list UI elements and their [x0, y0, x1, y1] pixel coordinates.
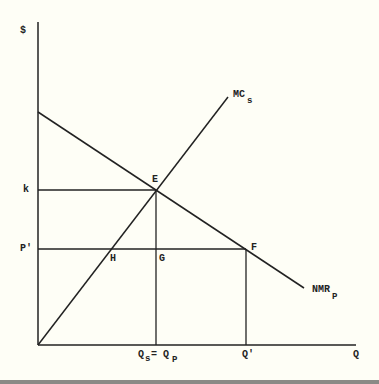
nmr-subscript: P — [332, 292, 338, 302]
diagram-canvas: $ Q MC s NMR P E F G H k P' Q s = Q P Q' — [0, 0, 379, 384]
k-tick-label: k — [23, 184, 29, 195]
nmr-curve — [38, 112, 304, 288]
equals-qp-label: = Q — [151, 349, 169, 360]
scan-edge-bar — [0, 380, 379, 384]
qs-subscript: s — [145, 354, 150, 364]
mc-curve — [38, 97, 228, 345]
qp-subscript: P — [172, 355, 178, 365]
nmr-label: NMR — [312, 284, 330, 295]
y-axis-label: $ — [20, 25, 26, 36]
point-e-label: E — [152, 174, 158, 185]
point-g-label: G — [159, 253, 165, 264]
qs-tick-label: Q — [138, 349, 144, 360]
q-prime-tick-label: Q' — [242, 349, 254, 360]
point-h-label: H — [110, 253, 116, 264]
mc-subscript: s — [247, 96, 252, 106]
x-axis-label: Q — [353, 349, 359, 360]
point-f-label: F — [251, 242, 257, 253]
mc-label: MC — [233, 89, 245, 100]
p-prime-tick-label: P' — [20, 243, 32, 254]
